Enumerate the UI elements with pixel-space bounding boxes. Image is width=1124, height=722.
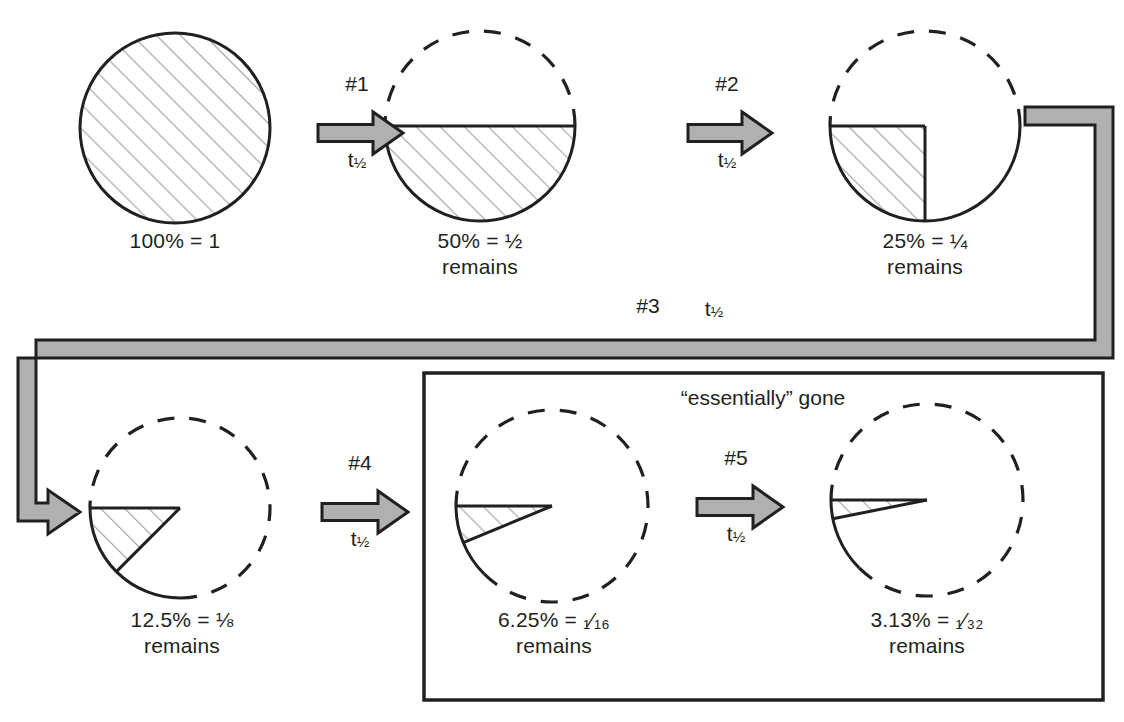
pie-dashed-arc-stage-25 [830, 31, 1020, 126]
stage-percent-50: 50% = ½ [438, 229, 523, 252]
stage-label-3-13: 3.13% = ₁⁄₃₂ remains [870, 607, 983, 659]
connector-time-label-3: t½ [705, 297, 723, 321]
stage-percent-100: 100% = 1 [130, 229, 221, 252]
diagram-canvas: 100% = 1 50% = ½ remains 25% = ¼ remains… [0, 0, 1124, 722]
pie-fill-stage-50 [385, 126, 575, 221]
arrow-time-label-2: t½ [718, 148, 736, 172]
stage-label-6-25: 6.25% = ₁⁄₁₆ remains [498, 607, 610, 659]
arrow-time-label-4: t½ [351, 527, 369, 551]
arrow-step-label-4: #4 [348, 451, 371, 475]
stage-percent-25: 25% = ¼ [883, 229, 968, 252]
arrow-time-label-1: t½ [348, 148, 366, 172]
connector-step-label-3: #3 [636, 294, 659, 318]
arrow-time-label-5: t½ [727, 522, 745, 546]
stage-remains-6-25: remains [498, 633, 610, 659]
stage-remains-3-13: remains [870, 633, 983, 659]
stage-percent-3-13: 3.13% = ₁⁄₃₂ [870, 608, 983, 631]
stage-percent-6-25: 6.25% = ₁⁄₁₆ [498, 608, 610, 631]
stage-label-50: 50% = ½ remains [438, 228, 523, 280]
stage-remains-25: remains [883, 254, 968, 280]
arrow-step-label-1: #1 [345, 72, 368, 96]
generated-shapes [18, 31, 1113, 700]
essentially-gone-label: “essentially” gone [681, 386, 846, 410]
stage-label-100: 100% = 1 [130, 228, 221, 254]
arrow-step-label-5: #5 [724, 446, 747, 470]
stage-label-25: 25% = ¼ remains [883, 228, 968, 280]
pie-dashed-arc-stage-50 [385, 31, 575, 126]
stage-remains-50: remains [438, 254, 523, 280]
stage-label-12-5: 12.5% = ⅛ remains [131, 607, 234, 659]
stage-remains-12-5: remains [131, 633, 234, 659]
pie-fill-stage-12-5 [90, 508, 180, 572]
arrow-step-label-2: #2 [715, 72, 738, 96]
stage-percent-12-5: 12.5% = ⅛ [131, 608, 234, 631]
